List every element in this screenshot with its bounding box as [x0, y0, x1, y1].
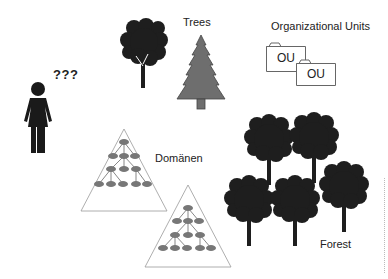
forest-tree-3 — [224, 175, 274, 246]
forest-tree-4 — [270, 175, 320, 246]
forest-tree-1 — [244, 114, 294, 185]
edge-dotted-line — [384, 178, 386, 273]
forest-label: Forest — [320, 238, 351, 250]
forest-tree-5 — [319, 161, 369, 232]
